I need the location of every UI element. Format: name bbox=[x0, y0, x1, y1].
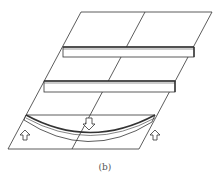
load-arrow-icon bbox=[83, 118, 95, 130]
figure-caption: (b) bbox=[0, 162, 210, 172]
lower-bar bbox=[44, 81, 175, 92]
diagram-canvas bbox=[0, 0, 221, 180]
right-support-arrow-icon bbox=[150, 130, 160, 140]
left-support-arrow-icon bbox=[20, 130, 30, 140]
upper-bar bbox=[63, 47, 194, 57]
